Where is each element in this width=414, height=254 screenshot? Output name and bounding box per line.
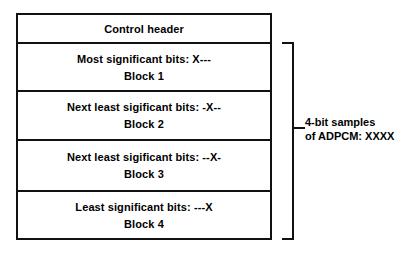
packet-row-block-1: Most significant bits: X--- Block 1 [18,42,270,90]
bracket-arm-top [282,42,294,44]
bracket-callout-tick [292,127,305,129]
block-1-description: Most significant bits: X--- [77,52,211,66]
packet-row-block-2: Next least sigificant bits: -X-- Block 2 [18,90,270,139]
bracket-spine [292,42,294,240]
packet-row-block-3: Next least sigificant bits: --X- Block 3 [18,139,270,190]
packet-frame: Control header Most significant bits: X-… [16,13,272,240]
block-3-name: Block 3 [124,167,164,181]
block-3-description: Next least sigificant bits: --X- [67,150,221,164]
block-4-description: Least significant bits: ---X [75,200,212,214]
grouping-bracket [280,42,294,240]
control-header-label: Control header [104,22,184,36]
annotation-4-bit-samples: 4-bit samples of ADPCM: XXXX [305,115,411,143]
annotation-line-1: 4-bit samples [305,115,411,129]
annotation-line-2: of ADPCM: XXXX [305,129,411,143]
bracket-arm-bottom [282,238,294,240]
block-4-name: Block 4 [124,217,164,231]
block-1-name: Block 1 [124,69,164,83]
packet-row-control-header: Control header [18,15,270,42]
diagram-canvas: Control header Most significant bits: X-… [0,0,414,254]
block-2-name: Block 2 [124,117,164,131]
packet-row-block-4: Least significant bits: ---X Block 4 [18,190,270,238]
block-2-description: Next least sigificant bits: -X-- [67,100,221,114]
